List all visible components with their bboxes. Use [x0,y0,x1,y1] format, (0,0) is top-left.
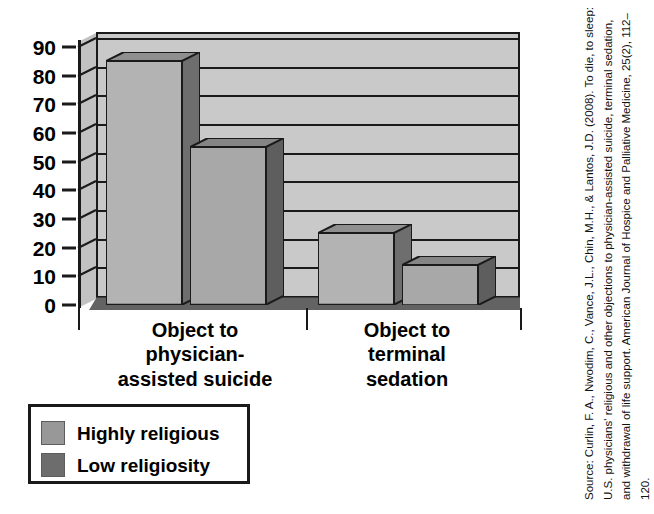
y-axis-tick-80 [62,74,76,77]
bar-outline [190,138,284,305]
gridline-90 [96,38,520,40]
y-axis-tick-10 [62,275,76,278]
gridline-connector-80 [78,67,98,77]
y-axis-label-20: 20 [4,237,56,258]
y-axis-label-60: 60 [4,123,56,144]
legend-item-low-religiosity: Low religiosity [41,453,210,477]
y-axis-label-90: 90 [4,37,56,58]
x-axis-category-line: Object to [302,318,512,342]
y-axis-label-70: 70 [4,94,56,115]
x-axis-category-line: terminal [302,342,512,366]
bar-outline [106,52,200,305]
gridline-connector-90 [78,38,98,48]
y-axis-tick-0 [62,304,76,307]
y-axis-tick-60 [62,132,76,135]
gridline-connector-10 [78,267,98,277]
legend-swatch-low-religiosity [41,453,65,477]
x-axis-divider-0 [78,308,80,330]
bar-highly-religious-group-1 [106,52,200,305]
source-citation-text: Source: Curlin, F. A., Nwodim, C., Vance… [580,0,654,500]
y-axis-label-0: 0 [4,295,56,316]
bar-chart: 9080706050403020100 Object tophysician-a… [0,0,520,390]
y-axis-label-50: 50 [4,151,56,172]
bar-low-religiosity-group-2 [402,256,496,305]
x-axis-category-line: physician- [90,342,300,366]
x-axis-category-1: Object tophysician-assisted suicide [90,318,300,391]
x-axis-category-line: Object to [90,318,300,342]
legend-label-highly-religious: Highly religious [77,424,220,443]
y-axis-tick-30 [62,218,76,221]
y-axis-label-80: 80 [4,65,56,86]
gridline-connector-50 [78,153,98,163]
gridline-connector-40 [78,181,98,191]
source-citation: Source: Curlin, F. A., Nwodim, C., Vance… [522,0,582,514]
legend-item-highly-religious: Highly religious [41,421,220,445]
x-axis-divider-1 [306,308,308,330]
gridline-connector-70 [78,95,98,105]
y-axis-label-10: 10 [4,266,56,287]
gridline-connector-60 [78,124,98,134]
y-axis-tick-70 [62,103,76,106]
y-axis-label-40: 40 [4,180,56,201]
gridline-connector-30 [78,210,98,220]
y-axis-label-30: 30 [4,209,56,230]
y-axis-tick-50 [62,160,76,163]
x-axis-category-line: sedation [302,367,512,391]
y-axis-tick-90 [62,46,76,49]
bar-outline [402,256,496,305]
bar-low-religiosity-group-1 [190,138,284,305]
bar-outline [318,224,412,305]
gridline-connector-20 [78,239,98,249]
legend-swatch-highly-religious [41,421,65,445]
bar-highly-religious-group-2 [318,224,412,305]
y-axis-tick-40 [62,189,76,192]
x-axis-category-line: assisted suicide [90,367,300,391]
y-axis-tick-20 [62,246,76,249]
legend-box: Highly religious Low religiosity [28,404,250,484]
legend-label-low-religiosity: Low religiosity [77,456,210,475]
x-axis-category-2: Object toterminalsedation [302,318,512,391]
